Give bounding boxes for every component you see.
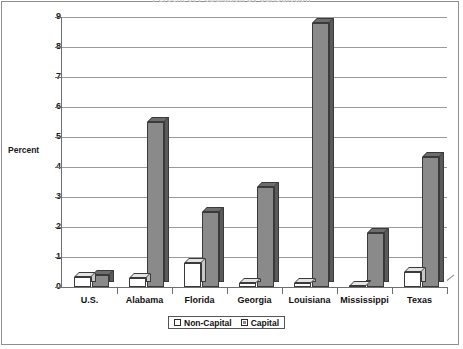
y-tick-label: 8	[43, 41, 61, 51]
bar-capital	[147, 122, 164, 287]
bar-group	[172, 17, 227, 287]
bar-group	[117, 17, 172, 287]
bar-chart: Percent of Population by Jurisdiction Pe…	[0, 0, 463, 349]
bar-non-capital	[129, 278, 146, 287]
x-tick-mark	[117, 287, 118, 294]
bar-non-capital	[184, 263, 201, 287]
chart-title: Percent of Population by Jurisdiction	[0, 0, 463, 2]
bar-group	[392, 17, 447, 287]
legend-swatch-non-capital	[174, 319, 181, 326]
plot-area	[62, 17, 447, 287]
y-tick-label: 3	[43, 191, 61, 201]
y-tick-label: 4	[43, 161, 61, 171]
bar-non-capital	[239, 283, 256, 288]
legend-item-non-capital: Non-Capital	[174, 318, 232, 328]
bar-non-capital	[74, 277, 91, 288]
bar-side	[164, 117, 169, 282]
x-tick-mark	[227, 287, 228, 294]
bar-group	[62, 17, 117, 287]
y-axis-ticks: 0123456789	[0, 17, 61, 287]
x-tick-mark	[282, 287, 283, 294]
y-tick-label: 7	[43, 71, 61, 81]
bar-face	[239, 283, 256, 288]
y-tick-label: 1	[43, 251, 61, 261]
bar-face	[147, 122, 164, 287]
y-tick-label: 9	[43, 11, 61, 21]
bar-face	[404, 272, 421, 287]
bar-side	[274, 182, 279, 283]
x-axis-label: U.S.	[62, 295, 117, 305]
bar-group	[337, 17, 392, 287]
bar-side	[219, 207, 224, 282]
bar-face	[367, 233, 384, 287]
bar-side	[384, 228, 389, 282]
bar-capital	[367, 233, 384, 287]
bar-face	[129, 278, 146, 287]
x-tick-mark	[337, 287, 338, 294]
bar-capital	[257, 187, 274, 288]
legend-label-non-capital: Non-Capital	[184, 318, 232, 328]
bar-group	[282, 17, 337, 287]
y-tick-label: 6	[43, 101, 61, 111]
x-tick-mark	[172, 287, 173, 294]
bar-face	[74, 277, 91, 288]
x-tick-mark	[392, 287, 393, 294]
bar-face	[184, 263, 201, 287]
x-tick-mark	[447, 287, 448, 294]
x-axis-label: Georgia	[227, 295, 282, 305]
bar-face	[294, 283, 311, 288]
bar-capital	[312, 23, 329, 287]
y-tick-label: 0	[43, 281, 61, 291]
bar-face	[257, 187, 274, 288]
chart-legend: Non-Capital Capital	[168, 316, 285, 329]
bar-non-capital	[294, 283, 311, 288]
legend-item-capital: Capital	[241, 318, 279, 328]
bar-non-capital	[349, 286, 366, 288]
bar-non-capital	[404, 272, 421, 287]
x-axis-line	[61, 287, 448, 288]
bar-side	[329, 18, 334, 282]
legend-swatch-capital	[241, 319, 248, 326]
x-axis-label: Texas	[392, 295, 447, 305]
x-axis-label: Florida	[172, 295, 227, 305]
legend-label-capital: Capital	[251, 318, 279, 328]
x-axis-label: Alabama	[117, 295, 172, 305]
x-axis-label: Louisiana	[282, 295, 337, 305]
bar-group	[227, 17, 282, 287]
bar-side	[439, 152, 444, 283]
y-tick-label: 5	[43, 131, 61, 141]
x-axis-label: Mississippi	[337, 295, 392, 305]
bar-face	[312, 23, 329, 287]
y-tick-label: 2	[43, 221, 61, 231]
